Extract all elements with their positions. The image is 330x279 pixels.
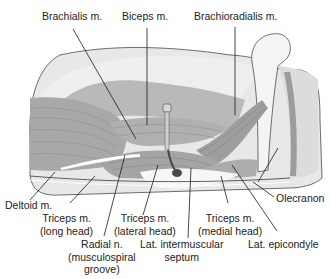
label-triceps-lateral-line2: (lateral head) xyxy=(114,225,176,238)
label-triceps-lateral-line1: Triceps m. xyxy=(114,212,176,225)
label-triceps-medial-line1: Triceps m. xyxy=(198,212,262,225)
label-radial-nerve-line1: Radial n. xyxy=(68,238,136,251)
label-brachioradialis: Brachioradialis m. xyxy=(194,10,277,23)
label-biceps: Biceps m. xyxy=(122,10,168,23)
label-brachialis: Brachialis m. xyxy=(42,10,102,23)
label-olecranon: Olecranon xyxy=(276,192,324,205)
label-radial-nerve-line2: (musculospiral xyxy=(68,251,136,264)
label-triceps-medial-head: Triceps m. (medial head) xyxy=(198,212,262,237)
label-brachioradialis-text: Brachioradialis m. xyxy=(194,10,277,23)
label-lat-septum-line1: Lat. intermuscular xyxy=(140,238,223,251)
label-deltoid: Deltoid m. xyxy=(5,199,52,212)
label-triceps-long-line2: (long head) xyxy=(40,225,93,238)
label-triceps-lateral-head: Triceps m. (lateral head) xyxy=(114,212,176,237)
label-lateral-intermuscular-septum: Lat. intermuscular septum xyxy=(140,238,223,263)
label-triceps-long-line1: Triceps m. xyxy=(40,212,93,225)
label-biceps-text: Biceps m. xyxy=(122,10,168,23)
label-olecranon-text: Olecranon xyxy=(276,192,324,205)
label-lat-epicondyle-text: Lat. epicondyle xyxy=(248,238,319,251)
label-triceps-medial-line2: (medial head) xyxy=(198,225,262,238)
label-triceps-long-head: Triceps m. (long head) xyxy=(40,212,93,237)
label-lateral-epicondyle: Lat. epicondyle xyxy=(248,238,319,251)
label-lat-septum-line2: septum xyxy=(140,251,223,264)
label-deltoid-text: Deltoid m. xyxy=(5,199,52,212)
label-radial-nerve-line3: groove) xyxy=(68,263,136,276)
label-brachialis-text: Brachialis m. xyxy=(42,10,102,23)
label-radial-nerve: Radial n. (musculospiral groove) xyxy=(68,238,136,276)
